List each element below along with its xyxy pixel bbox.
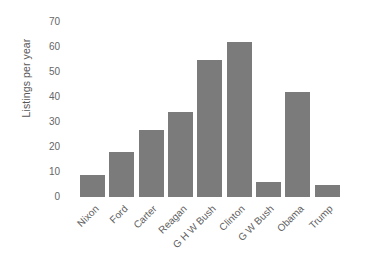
bar[interactable]	[227, 42, 252, 197]
y-axis-tick-labels: 010203040506070	[34, 0, 60, 280]
plot-area	[78, 22, 354, 197]
x-label-slot: G W Bush	[254, 197, 283, 280]
bar-slot	[254, 22, 283, 197]
bar-slot	[78, 22, 107, 197]
bar[interactable]	[197, 60, 222, 198]
bar[interactable]	[285, 92, 310, 197]
bar[interactable]	[315, 185, 340, 198]
x-axis-tick-label: Nixon	[75, 203, 101, 229]
y-axis-tick-label: 50	[34, 67, 60, 77]
y-axis-tick-label: 40	[34, 92, 60, 102]
bar-slot	[166, 22, 195, 197]
y-axis-tick-label: 20	[34, 142, 60, 152]
bar[interactable]	[168, 112, 193, 197]
y-axis-tick-label: 30	[34, 117, 60, 127]
x-axis-tick-label: Carter	[132, 203, 159, 230]
bar[interactable]	[139, 130, 164, 198]
bar-slot	[195, 22, 224, 197]
bar-slot	[283, 22, 312, 197]
x-axis-tick-labels: NixonFordCarterReaganG H W BushClintonG …	[78, 197, 354, 280]
x-label-slot: G H W Bush	[195, 197, 224, 280]
x-label-slot: Carter	[137, 197, 166, 280]
bar-slot	[107, 22, 136, 197]
y-axis-tick-label: 70	[34, 17, 60, 27]
bar-slot	[225, 22, 254, 197]
bar-slot	[137, 22, 166, 197]
y-axis-title: Listings per year	[20, 18, 32, 138]
x-axis-tick-label: Ford	[107, 203, 129, 225]
y-axis-tick-label: 60	[34, 42, 60, 52]
bar[interactable]	[256, 182, 281, 197]
bar[interactable]	[109, 152, 134, 197]
y-axis-tick-label: 0	[34, 192, 60, 202]
y-axis-tick-label: 10	[34, 167, 60, 177]
bar-slot	[312, 22, 341, 197]
x-label-slot: Trump	[312, 197, 341, 280]
bar-chart: Listings per year 010203040506070 NixonF…	[0, 0, 369, 280]
bar[interactable]	[80, 175, 105, 198]
x-label-slot: Ford	[107, 197, 136, 280]
x-label-slot: Nixon	[78, 197, 107, 280]
x-label-slot: Obama	[283, 197, 312, 280]
